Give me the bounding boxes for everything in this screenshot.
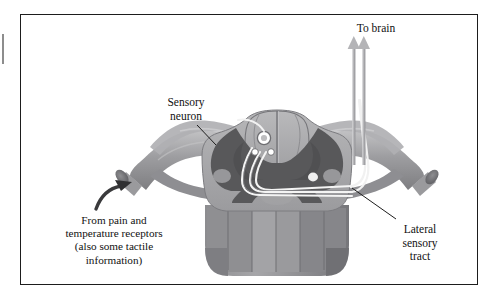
- label-to-brain: To brain: [318, 22, 434, 36]
- label-sensory-neuron: Sensory neuron: [140, 96, 232, 123]
- cord-lower-body: [205, 205, 349, 276]
- label-lateral-sensory-tract: Lateral sensory tract: [382, 223, 458, 264]
- from-pain-input-arrow: [96, 180, 132, 209]
- figure-stage: To brain Sensory neuron From pain and te…: [0, 0, 498, 303]
- lateral-tract-leader-line: [352, 188, 396, 219]
- central-canal: [308, 173, 318, 182]
- label-from-pain-and-temperature-receptors: From pain and temperature receptors (als…: [26, 214, 202, 267]
